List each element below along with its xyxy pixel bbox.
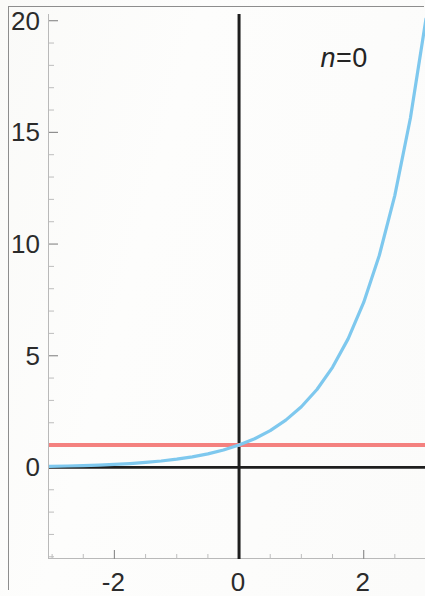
major-ticks <box>49 21 364 559</box>
figure-canvas: 20151050 -202 n=0 <box>0 0 425 596</box>
series-annotation-label: n=0 <box>320 43 367 74</box>
plot-frame <box>48 14 425 559</box>
minor-ticks <box>49 43 425 559</box>
annotation-variable: n <box>320 43 336 73</box>
annotation-value: =0 <box>336 43 368 73</box>
plot-canvas <box>49 14 425 559</box>
exponential-curve <box>49 19 425 467</box>
